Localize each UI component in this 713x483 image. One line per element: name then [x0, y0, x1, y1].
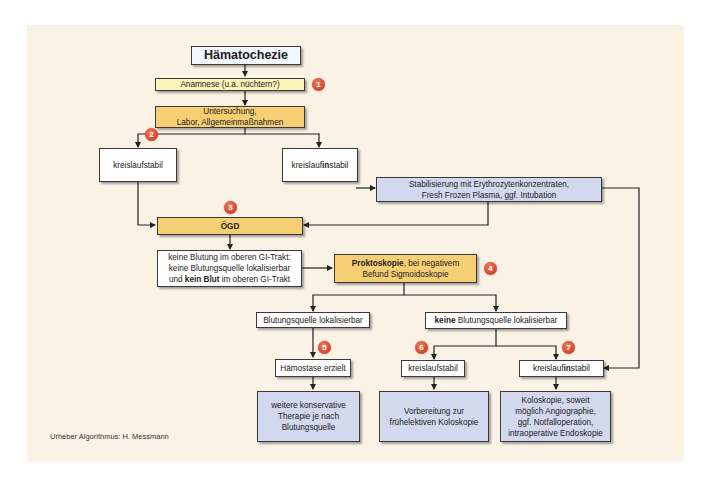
badge-5: 5: [318, 341, 331, 354]
node-kreislaufinstabil-top: kreislaufinstabil: [282, 148, 358, 182]
node-kreislaufinstabil-bottom-label: kreislaufinstabil: [533, 363, 590, 374]
node-vorbereitung-line1: Vorbereitung zur: [404, 406, 464, 417]
credit-text: Urheber Algorithmus: H. Messmann: [50, 432, 169, 441]
node-koloskopie-line2: möglich Angiographie,: [515, 406, 596, 417]
node-keine-blutung-line2: keine Blutungsquelle lokalisierbar: [169, 263, 291, 274]
node-koloskopie-line4: intraoperative Endoskopie: [508, 428, 603, 439]
node-weitere-line3: Blutungsquelle: [282, 422, 336, 433]
node-untersuchung-line2: Labor, Allgemeinmaßnahmen: [177, 117, 284, 128]
node-kreislaufstabil-bottom: kreislaufstabil: [401, 360, 465, 377]
node-quelle-lokalisierbar-label: Blutungsquelle lokalisierbar: [263, 315, 363, 326]
node-koloskopie-line1: Koloskopie, soweit: [522, 395, 590, 406]
node-keine-blutung-line1: keine Blutung im oberen GI-Trakt:: [168, 252, 291, 263]
badge-3: 3: [224, 201, 237, 214]
node-stabilisierung-line2: Fresh Frozen Plasma, ggf. Intubation: [422, 190, 557, 201]
node-untersuchung: Untersuchung, Labor, Allgemeinmaßnahmen: [155, 106, 305, 128]
badge-6: 6: [415, 341, 428, 354]
node-vorbereitung: Vorbereitung zur frühelektiven Koloskopi…: [379, 391, 489, 442]
node-keine-quelle-label: keine Blutungsquelle lokalisierbar: [435, 315, 558, 326]
node-haemostase-label: Hämostase erzielt: [280, 363, 346, 374]
node-kreislaufinstabil-bottom: kreislaufinstabil: [519, 360, 604, 377]
node-kreislaufstabil-top: kreislaufstabil: [99, 148, 177, 182]
node-quelle-lokalisierbar: Blutungsquelle lokalisierbar: [256, 312, 370, 328]
badge-4: 4: [484, 262, 497, 275]
node-proktoskopie: Proktoskopie, bei negativem Befund Sigmo…: [334, 254, 477, 283]
node-oegd-label: ÖGD: [221, 221, 240, 232]
node-untersuchung-line1: Untersuchung,: [203, 106, 256, 117]
node-weitere-line2: Therapie je nach: [278, 411, 339, 422]
title-box: Hämatochezie: [191, 46, 301, 65]
node-kreislaufinstabil-top-label: kreislaufinstabil: [292, 160, 349, 171]
node-koloskopie: Koloskopie, soweit möglich Angiographie,…: [500, 391, 611, 442]
badge-2: 2: [145, 128, 158, 141]
node-stabilisierung: Stabilisierung mit Erythrozytenkonzentra…: [376, 177, 602, 202]
node-kreislaufstabil-bottom-label: kreislaufstabil: [408, 363, 458, 374]
node-weitere-therapie: weitere konservative Therapie je nach Bl…: [257, 391, 360, 442]
node-keine-blutung: keine Blutung im oberen GI-Trakt: keine …: [157, 250, 302, 287]
node-koloskopie-line3: ggf. Notfalloperation,: [518, 417, 594, 428]
node-kreislaufstabil-top-label: kreislaufstabil: [113, 160, 163, 171]
badge-1: 1: [312, 78, 325, 91]
title-text: Hämatochezie: [204, 50, 288, 61]
node-proktoskopie-line2: Befund Sigmoidoskopie: [362, 269, 448, 280]
node-anamnese-label: Anamnese (u.a. nüchtern?): [180, 79, 279, 90]
node-haemostase: Hämostase erzielt: [275, 359, 351, 377]
badge-7: 7: [562, 341, 575, 354]
node-oegd: ÖGD: [157, 217, 303, 235]
node-weitere-line1: weitere konservative: [271, 400, 346, 411]
node-anamnese: Anamnese (u.a. nüchtern?): [155, 78, 305, 91]
node-vorbereitung-line2: frühelektiven Koloskopie: [390, 417, 479, 428]
node-keine-blutung-line3: und kein Blut im oberen GI-Trakt: [169, 274, 290, 285]
node-keine-quelle: keine Blutungsquelle lokalisierbar: [425, 312, 567, 329]
node-stabilisierung-line1: Stabilisierung mit Erythrozytenkonzentra…: [409, 179, 569, 190]
node-proktoskopie-line1: Proktoskopie, bei negativem: [352, 258, 459, 269]
